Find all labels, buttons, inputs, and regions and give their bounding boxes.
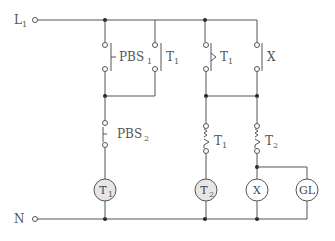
circuit-svg: L 1 N PBS 1: [0, 0, 335, 241]
branch-x-gl: T 2 X GL: [246, 96, 318, 219]
lamp-gl: GL: [296, 179, 318, 201]
svg-text:1: 1: [22, 20, 27, 29]
contact-t2-timed-nc: T 2: [255, 124, 279, 154]
svg-text:1: 1: [108, 190, 113, 199]
rail-label-l1: L 1: [14, 13, 27, 29]
contact-t1-timed-nc: T 1: [204, 124, 228, 154]
svg-text:2: 2: [144, 134, 149, 143]
svg-text:T: T: [166, 50, 174, 64]
svg-text:1: 1: [228, 57, 233, 66]
svg-text:T: T: [214, 134, 222, 148]
svg-text:1: 1: [174, 57, 179, 66]
contact-pbs2: PBS 2: [103, 121, 150, 148]
svg-text:X: X: [253, 184, 261, 197]
svg-text:1: 1: [147, 57, 152, 66]
coil-t1: T 1: [94, 179, 116, 201]
svg-text:T: T: [220, 50, 228, 64]
svg-text:2: 2: [273, 141, 278, 150]
svg-text:L: L: [14, 13, 22, 27]
branch-t2: T 1 T 2: [195, 96, 227, 219]
coil-x: X: [246, 179, 268, 201]
svg-text:X: X: [267, 50, 276, 64]
rail-label-n: N: [14, 212, 25, 226]
svg-text:2: 2: [209, 190, 214, 199]
svg-text:T: T: [265, 134, 273, 148]
contact-t1-timed-no: T 1: [204, 43, 234, 72]
svg-text:GL: GL: [299, 184, 316, 197]
svg-text:1: 1: [222, 141, 227, 150]
coil-t2: T 2: [195, 179, 217, 201]
bottom-rail: [33, 217, 308, 222]
svg-text:T: T: [200, 184, 208, 197]
top-rail: [33, 18, 258, 43]
contact-pbs1: PBS 1: [103, 43, 153, 72]
svg-text:T: T: [99, 184, 107, 197]
svg-text:PBS: PBS: [117, 127, 142, 141]
branch-t1: PBS 1 T 1 PBS 2 T 1: [94, 20, 179, 219]
svg-text:PBS: PBS: [119, 50, 144, 64]
svg-text:N: N: [14, 212, 25, 226]
branch-upper-right: T 1 X: [204, 20, 277, 98]
contact-t1-hold: T 1: [153, 43, 180, 72]
contact-x-hold: X: [255, 43, 277, 72]
ladder-diagram: L 1 N PBS 1: [0, 0, 335, 241]
